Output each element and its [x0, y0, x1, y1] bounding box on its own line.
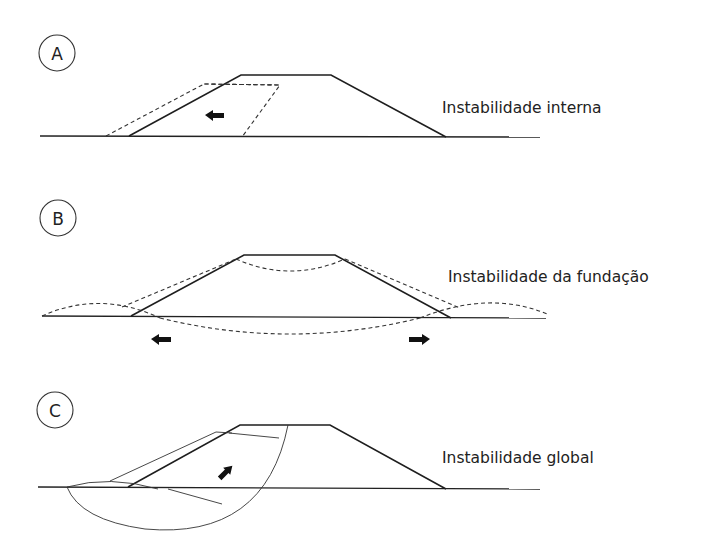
panel-b: B Instabilidade da fundação — [40, 200, 649, 345]
panel-b-letter-badge: B — [40, 200, 76, 236]
crest-settlement-dashed — [236, 259, 345, 271]
panel-a-letter: A — [51, 44, 63, 64]
panel-b-letter: B — [52, 209, 64, 229]
panel-c-letter-badge: C — [37, 392, 73, 428]
ground-line — [42, 316, 546, 318]
foundation-deformation-dashed — [160, 318, 420, 334]
right-heave-dashed — [420, 303, 547, 318]
panel-a-letter-badge: A — [39, 35, 75, 71]
panel-c: C Instabilidade global — [37, 392, 594, 530]
panel-c-caption: Instabilidade global — [442, 449, 594, 467]
ground-line — [40, 136, 540, 137]
left-slope-dashed — [122, 259, 236, 307]
right-slope-dashed — [345, 259, 460, 308]
embankment-outline — [129, 75, 446, 137]
panel-b-caption: Instabilidade da fundação — [448, 268, 649, 286]
arrow-right-icon — [409, 334, 430, 345]
arrow-left-icon — [151, 334, 171, 345]
panel-a: A Instabilidade interna — [39, 35, 602, 137]
slip-circle-arc — [67, 425, 288, 530]
failure-modes-diagram: A Instabilidade interna B Instabilidade — [0, 0, 717, 550]
embankment-outline — [128, 425, 446, 489]
sliding-wedge-dashed — [106, 84, 280, 137]
slip-block-top-line — [229, 433, 279, 438]
arrow-down-left-icon — [216, 462, 236, 482]
ground-line — [38, 487, 540, 489]
arrow-left-icon — [205, 110, 224, 121]
slice-line — [168, 489, 222, 504]
panel-c-letter: C — [49, 401, 61, 421]
embankment-outline — [131, 255, 451, 318]
panel-a-caption: Instabilidade interna — [442, 99, 602, 117]
